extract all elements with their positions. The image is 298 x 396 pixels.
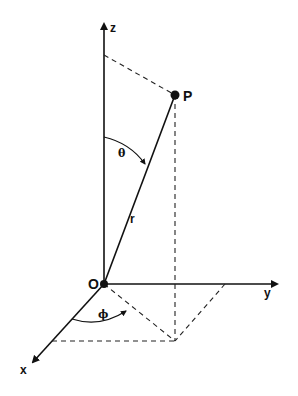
y-parallel-line (175, 284, 225, 341)
z-projection-line (104, 55, 175, 95)
point-p-label: P (183, 88, 192, 104)
radius-label: r (130, 212, 135, 226)
phi-label: ϕ (98, 308, 108, 321)
origin-point (100, 280, 108, 288)
x-axis-label: x (20, 363, 27, 377)
y-axis-label: y (264, 286, 271, 300)
point-p (171, 91, 180, 100)
radius-vector (104, 95, 175, 284)
theta-label: θ (118, 147, 125, 160)
x-axis (33, 284, 104, 362)
spherical-coordinates-diagram: z y x O P r θ ϕ (0, 0, 298, 396)
origin-label: O (88, 276, 99, 292)
xy-projection-line (104, 284, 175, 341)
z-axis-label: z (110, 21, 116, 35)
